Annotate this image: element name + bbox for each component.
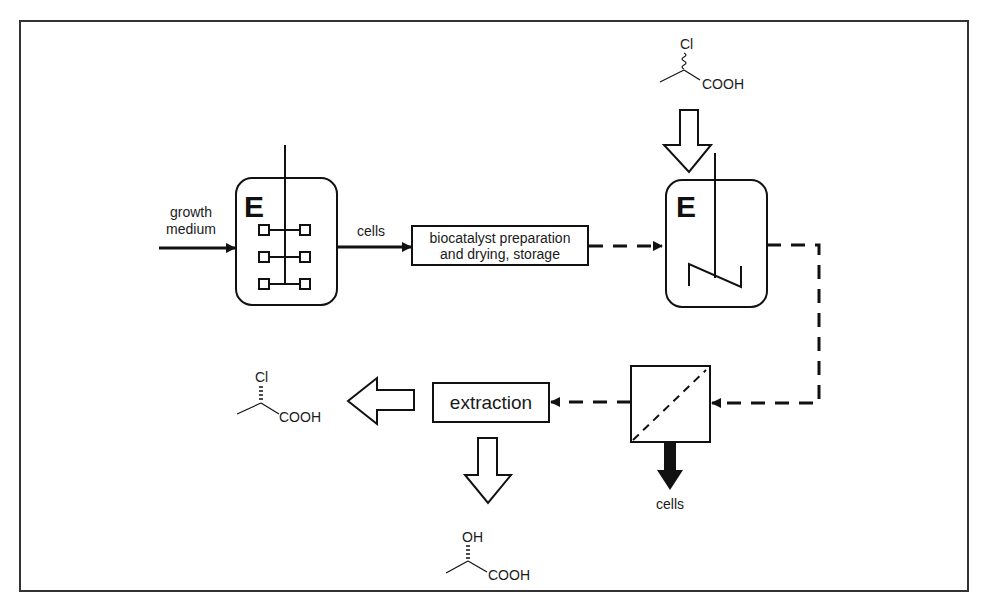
chloro-product-group: COOH: [279, 409, 321, 425]
cells-label: cells: [357, 223, 385, 239]
biocatalyst-line2: and drying, storage: [440, 246, 560, 262]
reactor-vessel: E: [666, 153, 767, 307]
biocatalyst-preparation-box: biocatalyst preparation and drying, stor…: [412, 226, 588, 265]
growth-medium-label-line2: medium: [166, 221, 216, 237]
process-flow-diagram: growth medium E cells biocatalyst prepar…: [0, 0, 985, 608]
hydroxy-product-group: COOH: [488, 567, 530, 583]
reactor-enzyme-label: E: [676, 190, 696, 223]
left-output-arrow-icon: [348, 378, 414, 424]
hydroxy-product-substituent: OH: [462, 529, 483, 545]
fermenter-vessel: E: [236, 145, 337, 305]
substrate-substituent: Cl: [680, 36, 693, 52]
biocatalyst-line1: biocatalyst preparation: [430, 230, 571, 246]
hashed-wedge-icon: [259, 387, 263, 399]
cells-out-label: cells: [656, 496, 684, 512]
growth-medium-input: growth medium: [159, 204, 235, 248]
cells-out-arrow-icon: [657, 442, 683, 490]
chloro-acid-product-structure: Cl COOH: [237, 369, 321, 425]
substrate-group: COOH: [702, 76, 744, 92]
chloro-product-substituent: Cl: [255, 369, 268, 385]
membrane-separator: cells: [631, 366, 710, 512]
growth-medium-label-line1: growth: [170, 204, 212, 220]
wavy-bond-icon: [682, 53, 686, 69]
substrate-feed-arrow-icon: [664, 110, 711, 172]
diagram-frame: [20, 21, 968, 591]
hashed-wedge-icon: [466, 546, 470, 558]
hydroxy-acid-product-structure: OH COOH: [446, 529, 530, 583]
reactor-to-separator-line: [712, 245, 819, 403]
extraction-box: extraction: [433, 383, 549, 422]
racemic-substrate-structure: Cl COOH: [660, 36, 744, 92]
down-output-arrow-icon: [465, 438, 511, 503]
fermenter-enzyme-label: E: [244, 190, 264, 223]
extraction-label: extraction: [450, 392, 532, 413]
